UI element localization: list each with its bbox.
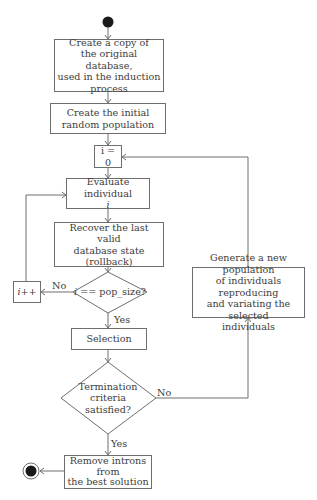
node-evaluate-individual: Evaluate individual i — [66, 178, 150, 209]
node-copy-database-label: Create a copy of the original database, … — [57, 37, 161, 95]
node-generate-population: Generate a new population of individuals… — [192, 267, 305, 318]
end-node-icon — [23, 463, 39, 479]
node-rollback: Recover the last valid database state (r… — [54, 222, 164, 267]
decision-pop-size-text: == pop_size? — [77, 286, 146, 298]
node-init-counter-label: i = 0 — [97, 145, 119, 168]
decision-termination-label: Termination criteria satisfied? — [78, 379, 138, 417]
node-evaluate-individual-var: i — [106, 199, 109, 211]
edge-label-pop-no: No — [52, 280, 66, 291]
edge-label-pop-yes: Yes — [114, 314, 130, 325]
node-remove-introns: Remove introns from the best solution — [64, 455, 152, 489]
node-init-counter: i = 0 — [94, 145, 122, 168]
node-initial-population-label: Create the initial random population — [62, 107, 154, 130]
flowchart: Create a copy of the original database, … — [0, 0, 317, 500]
node-rollback-label: Recover the last valid database state (r… — [57, 222, 161, 268]
node-increment: i++ — [13, 281, 41, 303]
node-selection: Selection — [71, 328, 147, 350]
node-copy-database: Create a copy of the original database, … — [54, 39, 164, 92]
node-selection-label: Selection — [86, 333, 131, 345]
edge-label-termination-no: No — [157, 387, 171, 398]
node-increment-label: i++ — [17, 286, 36, 298]
decision-termination-text: Termination criteria satisfied? — [79, 381, 138, 416]
edge-label-termination-yes: Yes — [111, 438, 127, 449]
node-evaluate-individual-label: Evaluate individual — [69, 176, 147, 199]
node-remove-introns-label: Remove introns from the best solution — [67, 456, 148, 488]
decision-pop-size-label: i == pop_size? — [73, 285, 147, 299]
node-initial-population: Create the initial random population — [50, 103, 166, 134]
node-generate-population-label: Generate a new population of individuals… — [195, 252, 302, 333]
start-node-icon — [103, 17, 114, 28]
